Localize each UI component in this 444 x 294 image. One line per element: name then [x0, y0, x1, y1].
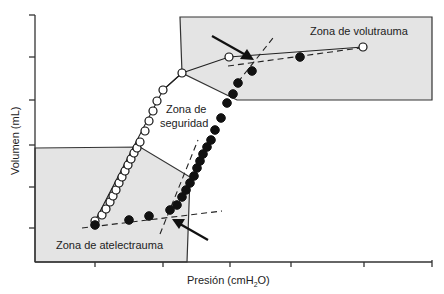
filled-data-point [207, 136, 216, 145]
open-data-point [359, 43, 367, 51]
filled-data-point [223, 99, 232, 108]
open-data-point [145, 117, 153, 125]
filled-data-point [217, 114, 226, 123]
filled-data-point [125, 216, 134, 225]
open-data-point [159, 86, 167, 94]
filled-data-point [234, 79, 243, 88]
safety-zone-label-line1: Zona de [166, 103, 206, 115]
filled-data-point [145, 212, 154, 221]
open-data-point [225, 53, 233, 61]
open-data-point [141, 127, 149, 135]
y-axis-label: Volumen (mL) [9, 107, 21, 175]
filled-data-point [296, 53, 305, 62]
filled-data-point [190, 172, 199, 181]
open-data-point [153, 97, 161, 105]
filled-data-point [229, 90, 238, 99]
open-data-point [136, 138, 144, 146]
volutrauma-label: Zona de volutrauma [310, 25, 409, 37]
pressure-volume-chart: Zona de volutrauma Zona de seguridad Zon… [0, 0, 444, 294]
safety-zone-label-line2: seguridad [160, 117, 208, 129]
atelectrauma-label: Zona de atelectrauma [56, 239, 164, 251]
open-data-point [149, 107, 157, 115]
y-axis [29, 15, 35, 262]
filled-data-point [91, 221, 100, 230]
filled-data-point [211, 126, 220, 135]
filled-data-point [173, 201, 182, 210]
open-data-point [178, 69, 186, 77]
filled-data-point [248, 67, 257, 76]
x-axis-label: Presión (cmH2O) [187, 274, 270, 288]
